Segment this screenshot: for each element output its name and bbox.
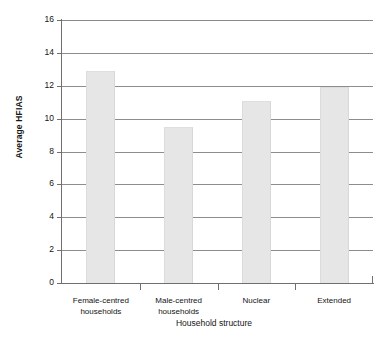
- gridline: [62, 20, 373, 21]
- x-tick-label-line: Male-centred: [140, 296, 218, 307]
- y-tick-group: 14: [62, 53, 63, 54]
- bar: [164, 127, 193, 283]
- x-tick-label: Extended: [295, 296, 373, 307]
- plot-area: 0246810121416 Female-centredhouseholdsMa…: [62, 20, 373, 283]
- y-tick-mark: [57, 119, 62, 120]
- y-tick-mark: [57, 53, 62, 54]
- y-tick-label: 16: [30, 14, 54, 24]
- x-tick-label-line: Female-centred: [62, 296, 140, 307]
- x-tick-mark: [218, 283, 219, 290]
- x-tick-label: Male-centredhouseholds: [140, 296, 218, 317]
- x-tick-label-line: households: [140, 307, 218, 318]
- y-tick-label: 14: [30, 47, 54, 57]
- gridline: [62, 53, 373, 54]
- y-tick-label: 10: [30, 113, 54, 123]
- bar: [242, 101, 271, 283]
- y-tick-group: 2: [62, 250, 63, 251]
- x-tick-label-line: households: [62, 307, 140, 318]
- y-tick-label: 8: [30, 146, 54, 156]
- x-tick-label: Nuclear: [218, 296, 296, 307]
- y-tick-mark: [57, 250, 62, 251]
- y-tick-group: 8: [62, 152, 63, 153]
- y-tick-mark: [57, 184, 62, 185]
- y-tick-group: 0: [62, 283, 63, 284]
- y-tick-mark: [57, 86, 62, 87]
- y-tick-label: 0: [30, 277, 54, 287]
- x-axis-right-end-tick: [372, 276, 373, 284]
- y-axis-title: Average HFIAS: [14, 72, 24, 182]
- y-tick-group: 6: [62, 184, 63, 185]
- y-tick-mark: [57, 283, 62, 284]
- y-tick-label: 6: [30, 178, 54, 188]
- y-tick-label: 2: [30, 244, 54, 254]
- y-tick-group: 10: [62, 119, 63, 120]
- y-tick-mark: [57, 152, 62, 153]
- bar: [86, 71, 115, 283]
- x-axis-title-text: Household structure: [176, 318, 252, 328]
- y-tick-label: 4: [30, 211, 54, 221]
- x-tick-mark: [140, 283, 141, 290]
- y-tick-mark: [57, 20, 62, 21]
- y-tick-group: 12: [62, 86, 63, 87]
- x-tick-label: Female-centredhouseholds: [62, 296, 140, 317]
- x-axis-title: Household structure: [0, 318, 390, 328]
- y-tick-group: 4: [62, 217, 63, 218]
- y-tick-label: 12: [30, 80, 54, 90]
- bar: [320, 87, 349, 283]
- y-tick-group: 16: [62, 20, 63, 21]
- y-tick-mark: [57, 217, 62, 218]
- x-tick-label-line: Extended: [295, 296, 373, 307]
- x-tick-mark: [295, 283, 296, 290]
- x-tick-label-line: Nuclear: [218, 296, 296, 307]
- bar-chart-figure: Average HFIAS 0246810121416 Female-centr…: [0, 0, 390, 340]
